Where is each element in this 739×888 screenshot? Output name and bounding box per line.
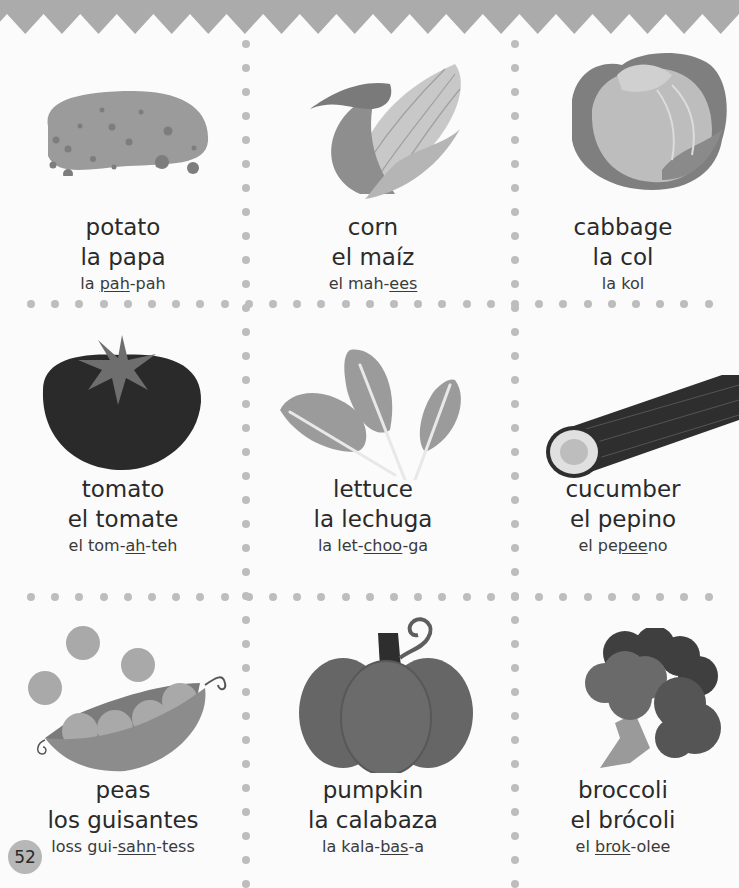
spanish-word: el pepino — [500, 504, 739, 534]
card-potato: potato la papa la pah-pah — [0, 36, 246, 300]
card-corn: corn el maíz el mah-ees — [250, 36, 496, 300]
cucumber-icon — [542, 370, 739, 480]
corn-icon — [305, 54, 470, 204]
english-word: corn — [250, 212, 496, 242]
pronunciation: el pepeeno — [500, 534, 739, 558]
spanish-word: la papa — [0, 242, 246, 272]
english-word: broccoli — [500, 775, 739, 805]
spanish-word: la lechuga — [250, 504, 496, 534]
spanish-word: el maíz — [250, 242, 496, 272]
card-cabbage: cabbage la col la kol — [500, 36, 739, 300]
horizontal-divider-bottom — [0, 593, 739, 601]
pronunciation: la kala-bas-a — [250, 835, 496, 859]
english-word: peas — [0, 775, 246, 805]
card-cucumber: cucumber el pepino el pepeeno — [500, 310, 739, 593]
card-broccoli: broccoli el brócoli el brok-olee — [500, 603, 739, 881]
zigzag-header-border — [0, 0, 739, 36]
page-number-badge: 52 — [8, 840, 42, 874]
pronunciation: la pah-pah — [0, 272, 246, 296]
card-tomato: tomato el tomate el tom-ah-teh — [0, 310, 246, 593]
cabbage-icon — [562, 50, 732, 195]
horizontal-divider-top — [0, 300, 739, 308]
english-word: cucumber — [500, 474, 739, 504]
english-word: pumpkin — [250, 775, 496, 805]
peas-icon — [25, 613, 235, 773]
pronunciation: la let-choo-ga — [250, 534, 496, 558]
spanish-word: la calabaza — [250, 805, 496, 835]
pronunciation: el brok-olee — [500, 835, 739, 859]
spanish-word: el tomate — [0, 504, 246, 534]
spanish-word: el brócoli — [500, 805, 739, 835]
english-word: potato — [0, 212, 246, 242]
spanish-word: la col — [500, 242, 739, 272]
english-word: tomato — [0, 474, 246, 504]
pumpkin-icon — [298, 613, 473, 773]
potato-icon — [38, 86, 213, 176]
spanish-word: los guisantes — [0, 805, 246, 835]
english-word: cabbage — [500, 212, 739, 242]
pronunciation: el tom-ah-teh — [0, 534, 246, 558]
english-word: lettuce — [250, 474, 496, 504]
tomato-icon — [38, 330, 206, 470]
card-lettuce: lettuce la lechuga la let-choo-ga — [250, 310, 496, 593]
pronunciation: la kol — [500, 272, 739, 296]
lettuce-icon — [275, 340, 485, 480]
card-pumpkin: pumpkin la calabaza la kala-bas-a — [250, 603, 496, 881]
pronunciation: el mah-ees — [250, 272, 496, 296]
broccoli-icon — [580, 628, 730, 768]
card-peas: peas los guisantes loss gui-sahn-tess — [0, 603, 246, 881]
